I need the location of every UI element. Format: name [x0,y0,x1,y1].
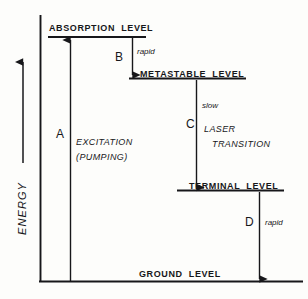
transition-letter-c: C [186,118,195,130]
transition-description-c-line1: LASER [204,124,236,135]
energy-axis-label: ENERGY [16,182,28,235]
transition-note-d: rapid [265,218,283,227]
level-label-metastable: METASTABLE LEVEL [140,69,244,79]
transition-letter-a: A [56,128,64,140]
transition-description-a-line2: (PUMPING) [76,152,128,163]
level-label-absorption: ABSORPTION LEVEL [49,23,153,33]
transition-description-c-line2: TRANSITION [212,139,271,150]
level-label-terminal: TERMINAL LEVEL [189,181,278,191]
transition-letter-d: D [245,216,254,228]
transition-note-c: slow [202,101,218,110]
transition-description-a-line1: EXCITATION [76,137,133,148]
level-label-ground: GROUND LEVEL [139,269,221,279]
energy-level-diagram: ENERGY ABSORPTION LEVEL METASTABLE LEVEL… [0,0,308,299]
transition-letter-b: B [115,51,123,63]
transition-note-b: rapid [137,47,155,56]
